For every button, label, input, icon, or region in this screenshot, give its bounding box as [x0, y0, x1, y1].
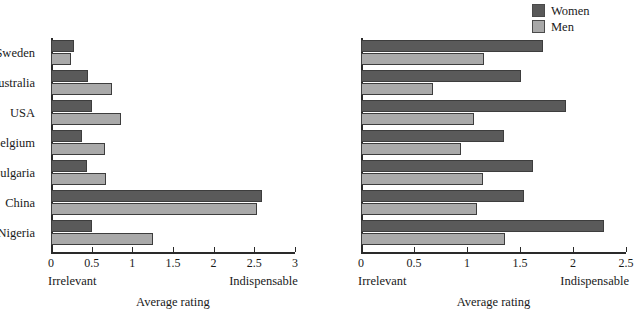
axis-low-label-right: Irrelevant — [358, 275, 407, 287]
bar-left-usa-men — [51, 113, 121, 125]
bar-left-nigeria-women — [51, 220, 92, 232]
bar-left-china-men — [51, 203, 257, 215]
bar-right-australia-men — [361, 83, 433, 95]
x-tick-left-2 — [132, 247, 133, 252]
bar-right-belgium-men — [361, 143, 461, 155]
x-tick-label-left-6: 3 — [292, 257, 298, 269]
bar-right-sweden-women — [361, 40, 543, 52]
x-tick-label-left-5: 2.5 — [247, 257, 262, 269]
bar-right-bulgaria-women — [361, 160, 533, 172]
x-tick-label-left-0: 0 — [48, 257, 54, 269]
bar-right-usa-women — [361, 100, 566, 112]
bar-left-bulgaria-women — [51, 160, 87, 172]
bar-right-usa-men — [361, 113, 474, 125]
x-axis-title-right: Average rating — [457, 296, 531, 308]
category-label-right-2: USA — [10, 107, 35, 119]
bar-left-bulgaria-men — [51, 173, 106, 185]
bar-left-nigeria-men — [51, 233, 153, 245]
x-axis-line-left — [51, 252, 295, 254]
bar-left-china-women — [51, 190, 262, 202]
bar-left-belgium-men — [51, 143, 105, 155]
x-tick-left-1 — [92, 247, 93, 252]
bar-right-nigeria-men — [361, 233, 505, 245]
bar-right-belgium-women — [361, 130, 504, 142]
bar-left-australia-women — [51, 70, 88, 82]
category-label-right-6: Nigeria — [0, 227, 35, 239]
x-tick-label-right-2: 1 — [464, 257, 470, 269]
x-tick-label-right-0: 0 — [358, 257, 364, 269]
x-tick-left-3 — [173, 247, 174, 252]
x-tick-label-left-3: 1.5 — [165, 257, 180, 269]
x-tick-label-left-2: 1 — [129, 257, 135, 269]
bar-left-sweden-women — [51, 40, 74, 52]
bar-right-australia-women — [361, 70, 521, 82]
category-label-right-5: China — [5, 197, 35, 209]
axis-high-label-right: Indispensable — [560, 275, 629, 287]
x-tick-label-right-3: 1.5 — [513, 257, 528, 269]
category-label-right-3: Belgium — [0, 137, 35, 149]
x-tick-left-4 — [214, 247, 215, 252]
bar-left-sweden-men — [51, 53, 71, 65]
x-tick-label-left-1: 0.5 — [84, 257, 99, 269]
x-tick-label-right-4: 2 — [570, 257, 576, 269]
x-tick-label-right-5: 2.5 — [619, 257, 634, 269]
axis-low-label-left: Irrelevant — [48, 275, 97, 287]
category-label-right-4: Bulgaria — [0, 167, 35, 179]
x-tick-label-right-1: 0.5 — [407, 257, 422, 269]
bar-right-nigeria-women — [361, 220, 604, 232]
axis-high-label-left: Indispensable — [229, 275, 298, 287]
bar-right-china-men — [361, 203, 477, 215]
x-tick-right-4 — [573, 247, 574, 252]
bar-right-sweden-men — [361, 53, 484, 65]
x-tick-label-left-4: 2 — [211, 257, 217, 269]
bar-left-belgium-women — [51, 130, 82, 142]
bar-left-usa-women — [51, 100, 92, 112]
chart-panel-right: 00.511.522.5SwedenAustraliaUSABelgiumBul… — [300, 0, 621, 309]
bar-right-bulgaria-men — [361, 173, 483, 185]
x-tick-right-1 — [414, 247, 415, 252]
x-tick-right-0 — [361, 247, 362, 252]
x-tick-left-5 — [254, 247, 255, 252]
x-tick-right-5 — [626, 247, 627, 252]
x-tick-right-2 — [467, 247, 468, 252]
x-axis-line-right — [361, 252, 626, 254]
bar-left-australia-men — [51, 83, 112, 95]
x-axis-title-left: Average rating — [136, 296, 210, 308]
category-label-right-1: Australia — [0, 77, 35, 89]
category-label-right-0: Sweden — [0, 47, 35, 59]
x-tick-left-0 — [51, 247, 52, 252]
bar-right-china-women — [361, 190, 524, 202]
chart-panel-left: 00.511.522.53SwedenAustraliaUSABelgiumBu… — [0, 0, 310, 309]
x-tick-left-6 — [295, 247, 296, 252]
x-tick-right-3 — [520, 247, 521, 252]
